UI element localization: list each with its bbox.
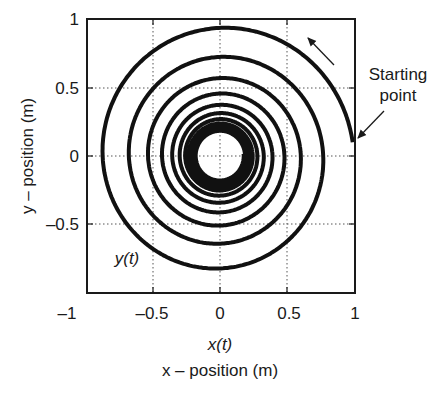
starting-point-arrow-icon — [358, 111, 384, 138]
y-tick-label: 0.5 — [55, 79, 79, 98]
x-tick-label: 0.5 — [277, 304, 301, 323]
x-tick-label: –0.5 — [135, 304, 168, 323]
x-tick-label: –1 — [58, 304, 77, 323]
x-tick-label: 1 — [350, 304, 359, 323]
y-tick-label: 0 — [70, 147, 79, 166]
spiral-chart: –1 –0.5 0 0.5 1 1 0.5 0 –0.5 x(t) x – po… — [0, 0, 439, 393]
starting-point-label-line1: Starting — [369, 65, 428, 84]
x-variable-label: x(t) — [207, 335, 233, 354]
y-tick-label: –0.5 — [46, 215, 79, 234]
spiral-trajectory — [103, 28, 353, 269]
y-axis-title: y – position (m) — [18, 98, 37, 214]
x-axis-title: x – position (m) — [162, 361, 278, 380]
series-label: y(t) — [114, 249, 140, 268]
y-tick-label: 1 — [70, 10, 79, 29]
starting-point-label-line2: point — [380, 86, 417, 105]
x-tick-label: 0 — [215, 304, 224, 323]
